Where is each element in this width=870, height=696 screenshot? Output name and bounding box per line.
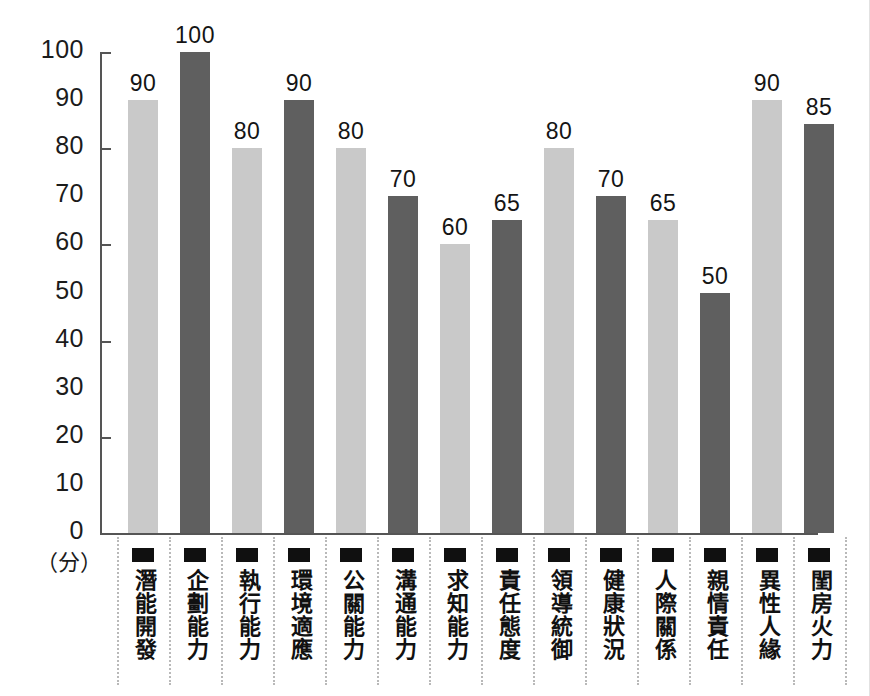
- category-label-group: 異性人緣: [741, 548, 793, 665]
- y-axis-tick-mark: [100, 437, 111, 439]
- bar-value-label: 70: [373, 166, 433, 193]
- category-separator: [845, 537, 847, 685]
- y-axis-tick-label: 90: [0, 83, 84, 112]
- category-label-text: 人際關係: [651, 569, 676, 661]
- category-label-text: 健康狀況: [599, 569, 624, 661]
- category-label-group: 領導統御: [533, 548, 585, 665]
- category-label-group: 人際關係: [637, 548, 689, 665]
- category-label-text: 求知能力: [443, 569, 468, 661]
- y-axis-tick-label: 70: [0, 179, 84, 208]
- bar: [180, 52, 210, 533]
- bar-value-label: 50: [685, 263, 745, 290]
- bar: [700, 293, 730, 534]
- bar: [544, 148, 574, 533]
- category-swatch-icon: [704, 548, 726, 562]
- y-axis-unit-label: （分）: [36, 544, 102, 576]
- category-swatch-icon: [236, 548, 258, 562]
- bar-value-label: 90: [737, 70, 797, 97]
- y-axis-tick-label: 40: [0, 324, 84, 353]
- bar: [648, 220, 678, 533]
- y-axis-tick-mark: [100, 148, 111, 150]
- category-label-group: 潛能開發: [117, 548, 169, 665]
- category-swatch-icon: [756, 548, 778, 562]
- bar-value-label: 90: [113, 70, 173, 97]
- category-label-text: 親情責任: [703, 569, 728, 661]
- category-swatch-icon: [496, 548, 518, 562]
- category-swatch-icon: [288, 548, 310, 562]
- bar-value-label: 100: [165, 22, 225, 49]
- bar: [232, 148, 262, 533]
- y-axis-tick-label: 50: [0, 276, 84, 305]
- category-label-text: 異性人緣: [755, 569, 780, 661]
- category-swatch-icon: [132, 548, 154, 562]
- bar: [492, 220, 522, 533]
- category-label-group: 企劃能力: [169, 548, 221, 665]
- bar-value-label: 60: [425, 214, 485, 241]
- category-label-group: 親情責任: [689, 548, 741, 665]
- x-axis-line: [100, 533, 818, 535]
- y-axis-tick-label: 100: [0, 35, 84, 64]
- category-label-text: 閨房火力: [807, 569, 832, 661]
- bar: [128, 100, 158, 533]
- bar-value-label: 90: [269, 70, 329, 97]
- category-swatch-icon: [808, 548, 830, 562]
- bar-value-label: 80: [321, 118, 381, 145]
- bar-value-label: 80: [529, 118, 589, 145]
- y-axis-tick-label: 0: [0, 516, 84, 545]
- category-label-group: 求知能力: [429, 548, 481, 665]
- category-swatch-icon: [340, 548, 362, 562]
- category-label-text: 領導統御: [547, 569, 572, 661]
- y-axis-tick-label: 20: [0, 420, 84, 449]
- category-label-group: 公關能力: [325, 548, 377, 665]
- category-label-group: 閨房火力: [793, 548, 845, 665]
- category-label-group: 執行能力: [221, 548, 273, 665]
- bar-value-label: 65: [633, 190, 693, 217]
- category-label-group: 責任態度: [481, 548, 533, 665]
- category-swatch-icon: [652, 548, 674, 562]
- category-label-text: 責任態度: [495, 569, 520, 661]
- bar: [752, 100, 782, 533]
- category-label-text: 公關能力: [339, 569, 364, 661]
- y-axis-tick-mark: [100, 244, 111, 246]
- y-axis-line: [100, 52, 102, 533]
- bar: [336, 148, 366, 533]
- y-axis-tick-mark: [100, 52, 111, 54]
- y-axis-tick-label: 60: [0, 227, 84, 256]
- chart-page: （分） 0102030405060708090100 9010080908070…: [0, 0, 870, 696]
- y-axis-tick-mark: [100, 341, 111, 343]
- category-label-group: 健康狀況: [585, 548, 637, 665]
- y-axis-tick-label: 80: [0, 131, 84, 160]
- y-axis-tick-label: 30: [0, 372, 84, 401]
- bar: [804, 124, 834, 533]
- bar-value-label: 85: [789, 94, 849, 121]
- category-swatch-icon: [392, 548, 414, 562]
- category-label-text: 執行能力: [235, 569, 260, 661]
- category-label-text: 潛能開發: [131, 569, 156, 661]
- category-label-text: 溝通能力: [391, 569, 416, 661]
- category-swatch-icon: [184, 548, 206, 562]
- category-swatch-icon: [548, 548, 570, 562]
- category-label-group: 環境適應: [273, 548, 325, 665]
- plot-area: 90100809080706065807065509085: [100, 52, 818, 533]
- category-label-text: 環境適應: [287, 569, 312, 661]
- category-label-group: 溝通能力: [377, 548, 429, 665]
- bar-value-label: 80: [217, 118, 277, 145]
- bar-value-label: 65: [477, 190, 537, 217]
- bar: [440, 244, 470, 533]
- bar: [388, 196, 418, 533]
- category-label-text: 企劃能力: [183, 569, 208, 661]
- category-swatch-icon: [444, 548, 466, 562]
- y-axis-tick-label: 10: [0, 468, 84, 497]
- category-swatch-icon: [600, 548, 622, 562]
- bar-value-label: 70: [581, 166, 641, 193]
- bar: [284, 100, 314, 533]
- bar: [596, 196, 626, 533]
